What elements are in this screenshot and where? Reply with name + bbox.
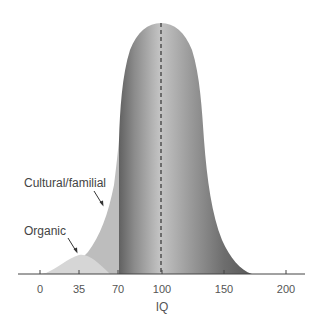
x-tick-label-35: 35 [73, 283, 85, 295]
organic-arrow-icon [68, 238, 78, 254]
x-tick-label-70: 70 [112, 283, 124, 295]
cultural-familial-arrow-icon [94, 191, 104, 207]
main-distribution-area [119, 23, 252, 274]
x-tick-label-100: 100 [153, 283, 171, 295]
cultural-familial-area [40, 140, 119, 274]
x-tick-label-200: 200 [277, 283, 295, 295]
x-tick-label-0: 0 [37, 283, 43, 295]
x-tick-label-150: 150 [215, 283, 233, 295]
iq-distribution-chart: 0 35 70 100 150 200 IQ Cultural/familial… [0, 0, 324, 331]
x-axis-title: IQ [156, 300, 169, 314]
organic-label: Organic [24, 224, 66, 238]
cultural-familial-label: Cultural/familial [24, 176, 106, 190]
